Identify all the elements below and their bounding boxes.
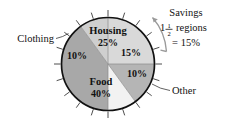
tick-mark <box>153 79 159 81</box>
annotation-fraction-numerator: 1 <box>167 22 170 29</box>
slice-label-food: Food <box>90 76 113 87</box>
tick-mark <box>91 13 93 19</box>
slice-pct-food: 40% <box>91 88 111 99</box>
tick-mark <box>76 102 80 107</box>
slice-pct-housing: 25% <box>98 37 118 48</box>
tick-mark <box>123 13 125 19</box>
callout-leader-clothing <box>56 34 69 39</box>
tick-mark <box>57 47 63 49</box>
annotation-regions-word: regions <box>176 22 207 33</box>
tick-mark <box>153 47 159 49</box>
callout-label-clothing: Clothing <box>17 33 55 44</box>
tick-mark <box>146 32 151 36</box>
savings-bracket-foot <box>161 50 167 51</box>
callout-leader-other <box>152 84 170 91</box>
annotation-fraction-denominator: 2 <box>167 30 170 37</box>
callout-label-other: Other <box>172 85 196 96</box>
slice-label-housing: Housing <box>89 25 127 36</box>
tick-mark <box>146 92 151 96</box>
slice-pct-other: 10% <box>127 68 147 79</box>
tick-mark <box>64 92 69 96</box>
tick-mark <box>123 109 125 115</box>
tick-mark <box>57 79 63 81</box>
pie-chart-canvas: Housing 25% 15% 10% Food 40% 10% Clothin… <box>0 0 225 134</box>
annotation-whole-number: 1 <box>160 22 165 33</box>
tick-mark <box>136 20 140 25</box>
annotation-result: = 15% <box>172 37 200 48</box>
slice-pct-clothing: 10% <box>67 50 87 61</box>
tick-mark <box>76 20 80 25</box>
pie-chart-figure: Housing 25% 15% 10% Food 40% 10% Clothin… <box>0 0 225 134</box>
annotation-mixed-number: 1 1 2 regions <box>160 22 207 37</box>
annotation-title-savings: Savings <box>169 7 202 18</box>
slice-pct-savings: 15% <box>121 47 141 58</box>
tick-mark <box>136 102 140 107</box>
tick-mark <box>91 109 93 115</box>
